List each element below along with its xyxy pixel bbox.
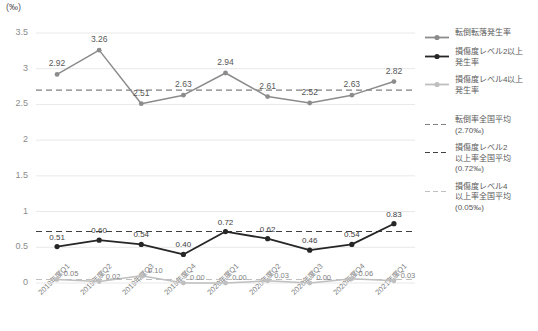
data-point xyxy=(349,242,354,247)
legend-label-line: (0.05‰) xyxy=(455,203,511,214)
data-point xyxy=(349,93,354,98)
legend-label-line: 以上率全国平均 xyxy=(455,192,511,203)
data-point-label: 0.72 xyxy=(218,218,234,227)
data-point xyxy=(265,278,270,283)
data-point xyxy=(181,252,186,257)
data-point-label: 0.02 xyxy=(106,272,121,281)
data-point-label: 0.40 xyxy=(176,240,192,249)
legend-label-line: 転倒転落発生率 xyxy=(455,28,511,39)
data-point xyxy=(392,278,397,283)
data-point xyxy=(223,229,228,234)
data-point-label: 0.51 xyxy=(49,233,65,242)
legend-label-line: 損傷度レベル4以上 xyxy=(455,75,523,86)
legend-separator xyxy=(424,103,538,115)
data-point xyxy=(349,276,354,281)
data-point-label: 0.00 xyxy=(232,273,247,282)
data-point-label: 2.63 xyxy=(344,79,361,89)
data-point xyxy=(391,221,396,226)
legend-item-label: 損傷度レベル4以上発生率 xyxy=(455,75,523,96)
dashed-line-swatch-icon xyxy=(424,116,450,127)
chart-legend: 転倒転落発生率損傷度レベル2以上発生率損傷度レベル4以上発生率転倒率全国平均(2… xyxy=(424,28,538,220)
data-point-label: 0.00 xyxy=(316,273,331,282)
data-point xyxy=(55,277,60,282)
legend-item[interactable]: 転倒転落発生率 xyxy=(424,28,538,40)
legend-item-label: 損傷度レベル4以上率全国平均(0.05‰) xyxy=(455,182,511,214)
data-point-label: 0.62 xyxy=(260,225,276,234)
data-point xyxy=(181,93,186,98)
legend-item-label: 損傷度レベル2以上率全国平均(0.72‰) xyxy=(455,143,511,175)
data-point xyxy=(307,281,312,286)
data-point-label: 0.00 xyxy=(190,273,205,282)
data-point xyxy=(139,242,144,247)
data-point xyxy=(139,101,144,106)
data-point-label: 2.61 xyxy=(259,81,276,91)
data-point-label: 0.03 xyxy=(401,271,416,280)
legend-label-line: 以上率全国平均 xyxy=(455,154,511,165)
legend-item-label: 転倒転落発生率 xyxy=(455,28,511,39)
data-point-label: 3.26 xyxy=(91,34,108,44)
data-point-label: 0.83 xyxy=(386,210,402,219)
data-point xyxy=(97,238,102,243)
legend-label-line: (0.72‰) xyxy=(455,164,511,175)
data-point xyxy=(223,281,228,286)
data-point xyxy=(97,48,102,53)
legend-label-line: (2.70‰) xyxy=(455,126,511,137)
data-point xyxy=(223,71,228,76)
data-point xyxy=(392,79,397,84)
data-point-label: 0.46 xyxy=(302,236,318,245)
legend-label-line: 損傷度レベル4 xyxy=(455,182,511,193)
data-point xyxy=(265,236,270,241)
legend-label-line: 発生率 xyxy=(455,86,523,97)
legend-label-line: 発生率 xyxy=(455,58,523,69)
data-point-label: 0.10 xyxy=(148,266,163,275)
legend-label-line: 損傷度レベル2以上 xyxy=(455,47,523,58)
line-marker-swatch-icon xyxy=(424,76,450,87)
data-point-label: 0.54 xyxy=(133,230,149,239)
data-point xyxy=(265,94,270,99)
data-point-label: 2.52 xyxy=(301,87,318,97)
legend-item[interactable]: 損傷度レベル2以上率全国平均(0.72‰) xyxy=(424,143,538,175)
data-point-label: 2.82 xyxy=(386,66,403,76)
legend-item[interactable]: 損傷度レベル4以上率全国平均(0.05‰) xyxy=(424,182,538,214)
data-point-label: 2.92 xyxy=(49,58,66,68)
data-point xyxy=(55,72,60,77)
data-point xyxy=(181,281,186,286)
dashed-line-swatch-icon xyxy=(424,183,450,194)
data-point-label: 0.05 xyxy=(64,269,79,278)
legend-item[interactable]: 損傷度レベル2以上発生率 xyxy=(424,47,538,68)
line-marker-swatch-icon xyxy=(424,48,450,59)
data-point xyxy=(307,101,312,106)
data-point-label: 2.51 xyxy=(133,88,150,98)
legend-item-label: 転倒率全国平均(2.70‰) xyxy=(455,115,511,136)
legend-label-line: 損傷度レベル2 xyxy=(455,143,511,154)
data-point-label: 0.06 xyxy=(359,269,374,278)
dashed-line-swatch-icon xyxy=(424,144,450,155)
data-point xyxy=(139,273,144,278)
data-point xyxy=(97,279,102,284)
chart-container: (‰) 00.511.522.533.5 2019年度Q12019年度Q2201… xyxy=(0,0,538,331)
data-point xyxy=(54,244,59,249)
data-point-label: 0.03 xyxy=(274,271,289,280)
legend-item[interactable]: 損傷度レベル4以上発生率 xyxy=(424,75,538,96)
data-point xyxy=(307,248,312,253)
legend-item-label: 損傷度レベル2以上発生率 xyxy=(455,47,523,68)
line-marker-swatch-icon xyxy=(424,29,450,40)
legend-item[interactable]: 転倒率全国平均(2.70‰) xyxy=(424,115,538,136)
data-point-label: 2.63 xyxy=(175,79,192,89)
data-point-label: 0.60 xyxy=(91,226,107,235)
data-point-label: 2.94 xyxy=(217,57,234,67)
legend-label-line: 転倒率全国平均 xyxy=(455,115,511,126)
data-point-label: 0.54 xyxy=(344,230,360,239)
